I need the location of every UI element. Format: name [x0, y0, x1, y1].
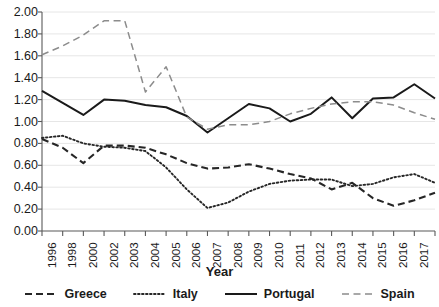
legend-swatch-italy: [133, 289, 167, 299]
legend-swatch-spain: [341, 289, 375, 299]
legend-item-portugal[interactable]: Portugal: [224, 288, 315, 300]
series-line-greece: [42, 139, 435, 206]
legend-label: Portugal: [264, 288, 315, 300]
legend-swatch-greece: [24, 289, 58, 299]
legend-item-italy[interactable]: Italy: [133, 288, 198, 300]
series-line-portugal: [42, 84, 435, 132]
series-line-spain: [42, 21, 435, 129]
legend-item-greece[interactable]: Greece: [24, 288, 106, 300]
legend-label: Italy: [173, 288, 198, 300]
series-line-italy: [42, 136, 435, 208]
line-chart: 0.000.200.400.600.801.001.201.401.601.80…: [0, 0, 439, 307]
legend-label: Spain: [381, 288, 415, 300]
plot-svg: [0, 0, 439, 245]
plot-area: 0.000.200.400.600.801.001.201.401.601.80…: [0, 0, 439, 245]
chart-legend: GreeceItalyPortugalSpain: [0, 283, 439, 305]
legend-item-spain[interactable]: Spain: [341, 288, 415, 300]
legend-swatch-portugal: [224, 289, 258, 299]
x-axis-title: Year: [0, 264, 439, 279]
legend-label: Greece: [64, 288, 106, 300]
